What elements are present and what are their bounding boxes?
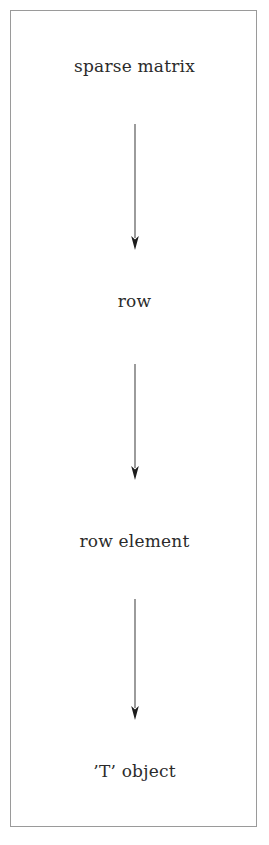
figure-container: sparse matrix row row element ’T’ object bbox=[0, 0, 269, 845]
node-t-object: ’T’ object bbox=[0, 761, 269, 781]
node-sparse-matrix: sparse matrix bbox=[0, 56, 269, 76]
node-row: row bbox=[0, 291, 269, 311]
node-row-element: row element bbox=[0, 531, 269, 551]
figure-border bbox=[10, 10, 257, 827]
